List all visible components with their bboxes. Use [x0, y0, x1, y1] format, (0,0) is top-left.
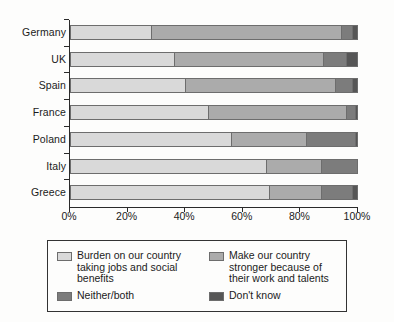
bar-segment [70, 105, 208, 120]
bar-segment [355, 105, 358, 120]
bar-segment [185, 78, 335, 93]
bar-segment [323, 52, 346, 67]
bar-segment [70, 52, 174, 67]
legend-label-neither: Neither/both [77, 290, 134, 302]
category-label-spain: Spain [39, 79, 66, 91]
y-tick [64, 72, 69, 73]
x-tick-label: 40% [164, 210, 204, 222]
x-tick-label: 100% [337, 210, 377, 222]
bar-segment [208, 105, 346, 120]
legend-label-stronger: Make our country stronger because of the… [229, 250, 341, 285]
category-label-uk: UK [51, 53, 66, 65]
bar-segment [321, 159, 358, 174]
bar-france [70, 105, 358, 120]
bar-greece [70, 185, 358, 200]
plot-area [70, 20, 358, 207]
bar-segment [352, 78, 358, 93]
bar-segment [352, 185, 358, 200]
bar-segment [335, 78, 352, 93]
bar-segment [321, 185, 353, 200]
y-tick [64, 46, 69, 47]
bar-segment [266, 159, 321, 174]
bar-segment [341, 25, 353, 40]
bar-segment [231, 132, 306, 147]
bar-segment [174, 52, 324, 67]
bar-segment [306, 132, 355, 147]
legend-item-dontknow: Don't know [209, 290, 341, 302]
stacked-bar-chart: GermanyUKSpainFrancePolandItalyGreece 0%… [0, 0, 394, 322]
legend-swatch-stronger-icon [209, 252, 224, 261]
bar-segment [70, 159, 266, 174]
bar-segment [269, 185, 321, 200]
bar-uk [70, 52, 358, 67]
category-label-france: France [33, 106, 66, 118]
legend-swatch-neither-icon [57, 292, 72, 301]
bar-segment [346, 105, 355, 120]
legend-item-stronger: Make our country stronger because of the… [209, 250, 341, 285]
y-tick [64, 99, 69, 100]
bar-segment [70, 78, 185, 93]
legend-item-neither: Neither/both [57, 290, 197, 302]
bar-segment [355, 132, 358, 147]
y-tick [64, 153, 69, 154]
legend-swatch-dontknow-icon [209, 292, 224, 301]
x-tick-label: 20% [107, 210, 147, 222]
bar-segment [70, 132, 231, 147]
x-tick-label: 80% [279, 210, 319, 222]
y-tick [64, 179, 69, 180]
y-tick [64, 126, 69, 127]
category-label-italy: Italy [46, 160, 66, 172]
bar-spain [70, 78, 358, 93]
bar-segment [352, 25, 358, 40]
legend-label-dontknow: Don't know [229, 290, 281, 302]
bar-segment [346, 52, 358, 67]
bar-germany [70, 25, 358, 40]
x-tick-label: 0% [49, 210, 89, 222]
bar-segment [70, 185, 269, 200]
chart-legend: Burden on our country taking jobs and so… [47, 240, 347, 312]
legend-label-burden: Burden on our country taking jobs and so… [77, 250, 197, 285]
x-tick-label: 60% [222, 210, 262, 222]
bar-poland [70, 132, 358, 147]
x-axis-line [69, 207, 358, 208]
category-label-greece: Greece [31, 186, 66, 198]
bar-italy [70, 159, 358, 174]
legend-item-burden: Burden on our country taking jobs and so… [57, 250, 197, 285]
category-label-poland: Poland [33, 133, 66, 145]
y-tick [64, 19, 69, 20]
legend-swatch-burden-icon [57, 252, 72, 261]
bar-segment [70, 25, 151, 40]
bar-segment [151, 25, 341, 40]
category-label-germany: Germany [22, 26, 66, 38]
